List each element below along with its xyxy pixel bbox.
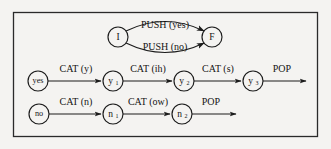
push-yes-label: PUSH (yes)	[141, 19, 189, 31]
no-level-group: CAT (n) CAT (ow) POP no n 1 n 2	[29, 96, 236, 124]
node-y1[interactable]	[103, 71, 123, 91]
node-n2-subscript: 2	[185, 113, 188, 119]
node-yes-label: yes	[33, 76, 44, 85]
node-y2[interactable]	[174, 71, 194, 91]
edge-label-cat-s: CAT (s)	[202, 63, 234, 75]
node-y3-subscript: 3	[256, 80, 259, 86]
node-y1-subscript: 1	[116, 80, 119, 86]
figure-frame	[14, 13, 318, 137]
node-y2-subscript: 2	[187, 80, 190, 86]
edge-label-cat-ow: CAT (ow)	[128, 96, 168, 108]
node-n2-label: n	[177, 109, 182, 119]
node-n1-label: n	[108, 109, 113, 119]
node-y3[interactable]	[243, 71, 263, 91]
edge-label-cat-y: CAT (y)	[60, 63, 93, 75]
node-y3-label: y	[248, 76, 253, 86]
node-n2[interactable]	[172, 104, 192, 124]
node-y2-label: y	[179, 76, 184, 86]
node-I-label: I	[116, 32, 119, 42]
edge-label-cat-n: CAT (n)	[60, 96, 93, 108]
figure-canvas: PUSH (yes) PUSH (no) I F CAT (y) CAT (ih…	[0, 0, 331, 149]
node-y1-label: y	[108, 76, 113, 86]
node-n1[interactable]	[103, 104, 123, 124]
node-n1-subscript: 1	[116, 113, 119, 119]
transition-network-diagram: PUSH (yes) PUSH (no) I F CAT (y) CAT (ih…	[0, 0, 331, 149]
node-no-label: no	[35, 109, 43, 118]
edge-label-pop-yes: POP	[273, 63, 292, 74]
edge-label-pop-no: POP	[202, 96, 221, 107]
push-no-label: PUSH (no)	[143, 41, 188, 53]
push-level-group: PUSH (yes) PUSH (no) I F	[108, 19, 222, 53]
yes-level-group: CAT (y) CAT (ih) CAT (s) POP yes y 1 y 2…	[28, 63, 306, 91]
node-F-label: F	[209, 32, 214, 42]
edge-label-cat-ih: CAT (ih)	[130, 63, 166, 75]
